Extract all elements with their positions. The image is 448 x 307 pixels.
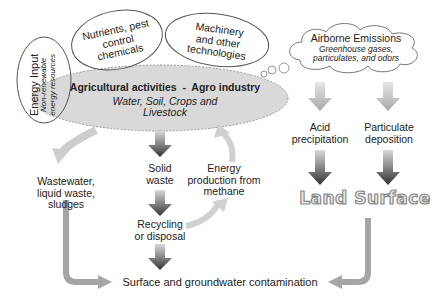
- energy-methane-label: Energy production from methane: [184, 163, 264, 198]
- emissions-title: Airborne Emissions: [296, 33, 416, 45]
- recycling-line-2: or disposal: [126, 231, 194, 243]
- connector-left: [66, 200, 100, 282]
- wastewater-line-1: Wastewater,: [24, 176, 108, 188]
- arrow-to-contamination: [148, 244, 172, 270]
- wastewater-line-3: sludges: [24, 199, 108, 211]
- acid-line-1: Acid: [286, 122, 354, 134]
- contamination-label: Surface and groundwater contamination: [112, 276, 328, 288]
- acid-line-2: precipitation: [286, 134, 354, 146]
- thought-bubble-mid: [268, 66, 276, 74]
- emissions-label: Airborne Emissions Greenhouse gases, par…: [296, 33, 416, 63]
- arrow-particulate-to-land: [376, 150, 400, 185]
- emissions-line-2: particulates, and odors: [296, 54, 416, 63]
- central-subtitle-2: Livestock: [60, 107, 270, 119]
- energy-methane-line-3: methane: [184, 186, 264, 198]
- arrow-to-recycling: [148, 190, 172, 216]
- energy-input-label: Energy Input Non-renewable energy resour…: [28, 40, 58, 130]
- arrow-to-solid-waste: [148, 131, 172, 157]
- thought-bubble-small: [261, 71, 267, 77]
- acid-precipitation-label: Acid precipitation: [286, 122, 354, 145]
- arrow-to-particulate: [376, 82, 400, 111]
- land-surface-label: Land Surface: [295, 189, 435, 208]
- arrow-to-wastewater: [62, 130, 96, 152]
- connector-right: [340, 218, 368, 282]
- thought-bubble-large: [279, 63, 289, 73]
- recycling-line-1: Recycling: [126, 219, 194, 231]
- central-label: Agricultural activities - Agro industry …: [60, 82, 270, 119]
- wastewater-label: Wastewater, liquid waste, sludges: [24, 176, 108, 211]
- arrow-acid-to-land: [308, 150, 332, 185]
- particulate-line-2: deposition: [355, 134, 423, 146]
- connector-right-head: [328, 275, 342, 289]
- energy-input-subtitle-2: energy resources: [49, 40, 58, 130]
- solid-waste-label: Solid waste: [136, 163, 184, 186]
- solid-waste-line-2: waste: [136, 175, 184, 187]
- solid-waste-line-1: Solid: [136, 163, 184, 175]
- energy-methane-line-1: Energy: [184, 163, 264, 175]
- arrow-to-acid: [308, 82, 332, 111]
- arrow-to-wastewater-head: [52, 148, 70, 164]
- particulate-deposition-label: Particulate deposition: [355, 122, 423, 145]
- central-title: Agricultural activities - Agro industry: [60, 82, 270, 94]
- connector-left-head: [98, 275, 112, 289]
- particulate-line-1: Particulate: [355, 122, 423, 134]
- arrow-energy-to-ellipse: [222, 132, 233, 162]
- recycling-label: Recycling or disposal: [126, 219, 194, 242]
